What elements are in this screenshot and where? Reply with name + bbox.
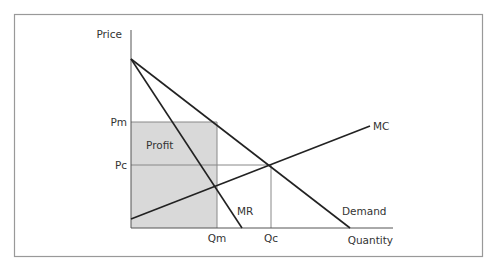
demand-label: Demand (342, 205, 387, 217)
profit-region (131, 122, 217, 228)
mc-label: MC (373, 120, 389, 132)
mr-label: MR (237, 205, 253, 217)
monopoly-diagram: Price Quantity Pm Pc Qm Qc MC MR Demand … (0, 0, 492, 272)
figure-frame (15, 15, 483, 257)
qc-label: Qc (264, 232, 278, 244)
quantity-axis-label: Quantity (348, 234, 393, 246)
pc-label: Pc (115, 159, 127, 171)
qm-label: Qm (208, 232, 227, 244)
price-axis-label: Price (96, 28, 122, 40)
pm-label: Pm (110, 116, 127, 128)
profit-label: Profit (146, 139, 173, 151)
